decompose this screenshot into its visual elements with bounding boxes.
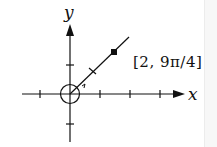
- x-axis-label: x: [188, 84, 198, 104]
- terminal-ray: [70, 37, 129, 94]
- x-axis-arrow-icon: [173, 90, 185, 98]
- point-label: [2, 9π/4]: [133, 53, 202, 71]
- point-marker: [111, 49, 117, 55]
- y-axis-arrow-icon: [66, 24, 74, 36]
- y-axis-label: y: [64, 2, 74, 22]
- polar-diagram: y x [2, 9π/4]: [0, 0, 217, 147]
- diagram-canvas: [0, 0, 217, 147]
